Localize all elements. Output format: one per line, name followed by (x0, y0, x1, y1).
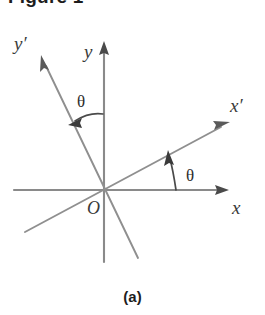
axis-y-prime (40, 55, 138, 258)
origin-label: O (87, 198, 100, 218)
axis-x-prime (25, 121, 230, 232)
angle-arc-theta-upper-arrowhead (68, 118, 82, 128)
theta-label-lower: θ (186, 166, 194, 185)
axis-label-x: x (231, 197, 241, 218)
theta-label-upper: θ (77, 92, 85, 111)
axis-x (14, 185, 229, 195)
figure-container: Figure 1 (0, 0, 265, 315)
coordinate-axes-diagram: x y x′ y′ O θ θ (0, 0, 265, 315)
axis-y-arrowhead (99, 41, 109, 55)
axis-label-y-prime: y′ (12, 33, 27, 54)
figure-caption: (a) (0, 288, 265, 305)
axis-label-x-prime: x′ (229, 95, 243, 116)
axis-x-arrowhead (215, 185, 229, 195)
axis-y-prime-line (46, 66, 138, 258)
axis-label-y: y (82, 41, 93, 62)
axis-y (99, 41, 109, 262)
axis-x-prime-arrowhead (213, 121, 230, 130)
axis-y-prime-arrowhead (40, 55, 49, 72)
